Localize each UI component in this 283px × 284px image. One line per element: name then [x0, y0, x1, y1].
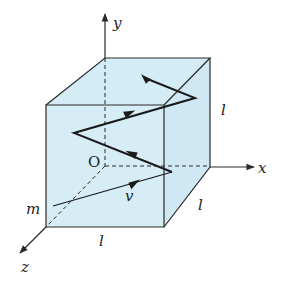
edge-length-bottom-front: l [99, 232, 104, 250]
x-axis-label: x [258, 159, 267, 177]
particle-label: m [26, 200, 40, 218]
z-axis [20, 227, 46, 253]
edge-length-right-depth: l [198, 196, 203, 214]
edge-length-right-vertical: l [221, 101, 226, 119]
y-axis-label: y [112, 14, 122, 32]
origin-label: O [88, 153, 100, 171]
cube-diagram: y x z O m v l l l [0, 0, 283, 284]
z-axis-label: z [20, 258, 29, 276]
velocity-label: v [125, 187, 134, 205]
